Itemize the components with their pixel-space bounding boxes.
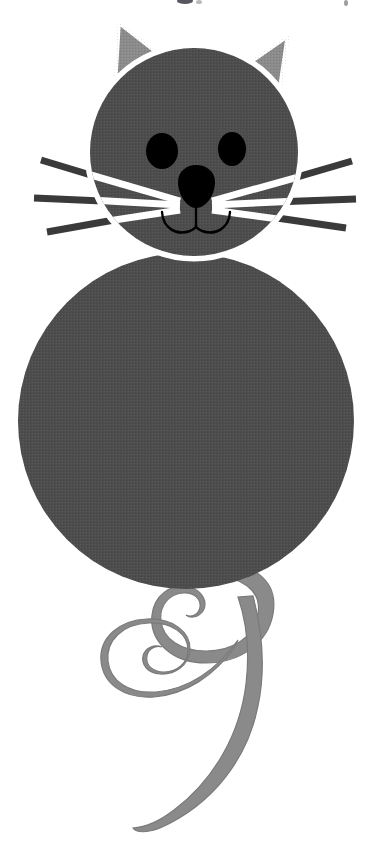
body xyxy=(18,253,354,589)
right-eye xyxy=(218,132,246,166)
head xyxy=(88,46,300,258)
left-eye xyxy=(146,133,178,169)
cat-illustration xyxy=(0,0,387,866)
top-artifact-3 xyxy=(344,0,348,6)
image-canvas: Clip art of a grey cartoon cat made of t… xyxy=(0,0,387,866)
top-artifact-2 xyxy=(196,0,202,4)
